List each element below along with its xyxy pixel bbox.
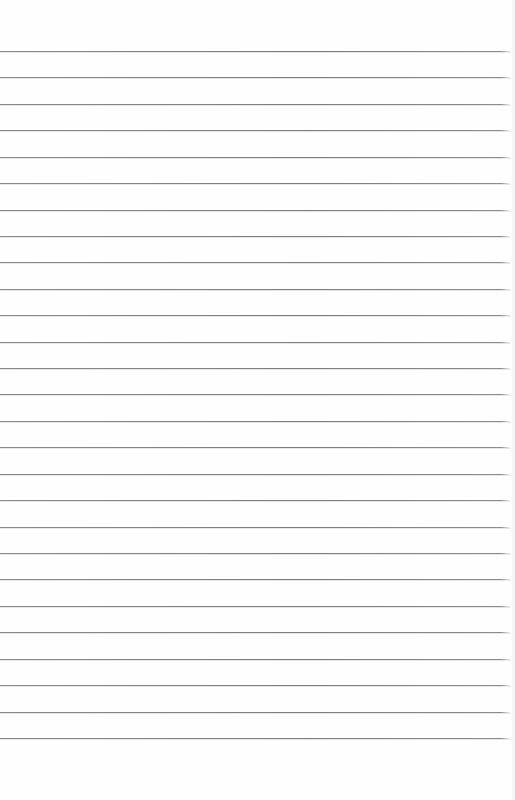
ruled-line (0, 157, 511, 158)
ruled-line (0, 421, 511, 422)
ruled-line (0, 659, 511, 660)
paper-edge-shadow (511, 0, 515, 800)
ruled-line (0, 315, 511, 316)
ruled-line (0, 500, 511, 501)
ruled-line (0, 289, 511, 290)
ruled-line (0, 447, 511, 448)
ruled-line (0, 632, 511, 633)
ruled-line (0, 553, 511, 554)
ruled-line (0, 262, 511, 263)
ruled-line (0, 527, 511, 528)
ruled-line (0, 77, 511, 78)
ruled-line (0, 606, 511, 607)
ruled-line (0, 474, 511, 475)
ruled-line (0, 685, 511, 686)
ruled-line (0, 236, 511, 237)
ruled-line (0, 712, 511, 713)
ruled-line (0, 342, 511, 343)
ruled-line (0, 130, 511, 131)
ruled-line (0, 738, 511, 739)
ruled-line (0, 183, 511, 184)
lined-paper-sheet (0, 0, 515, 800)
ruled-line (0, 210, 511, 211)
ruled-line (0, 579, 511, 580)
ruled-line (0, 394, 511, 395)
ruled-line (0, 51, 511, 52)
ruled-line (0, 104, 511, 105)
ruled-line (0, 368, 511, 369)
